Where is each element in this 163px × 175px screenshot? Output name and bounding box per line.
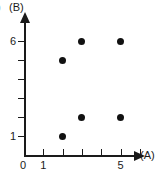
- x-axis-tick: [63, 149, 64, 157]
- y-axis-tick: [18, 41, 26, 42]
- y-axis-tick: [18, 60, 26, 61]
- data-point: [78, 38, 85, 45]
- data-point: [117, 38, 124, 45]
- x-axis-tick-label: 1: [36, 160, 50, 171]
- x-axis-tick: [82, 149, 83, 157]
- y-axis-arrow-icon: [20, 12, 30, 23]
- y-axis-tick: [18, 136, 26, 137]
- y-axis-tick: [18, 98, 26, 99]
- y-axis-title-partial-glyph: ): [0, 1, 1, 13]
- x-axis-tick: [101, 149, 102, 157]
- data-point: [117, 114, 124, 121]
- scatter-chart: ) (B) (A) 16 15 0: [0, 0, 163, 175]
- y-axis-tick-label: 6: [2, 36, 16, 47]
- x-axis-tick: [43, 149, 44, 157]
- data-point: [59, 57, 66, 64]
- x-axis-tick: [140, 149, 141, 157]
- x-axis-tick-label: 5: [114, 160, 128, 171]
- data-point: [78, 114, 85, 121]
- y-axis-tick-label: 1: [2, 131, 16, 142]
- y-axis-tick: [18, 117, 26, 118]
- data-point: [59, 133, 66, 140]
- x-axis-tick: [121, 149, 122, 157]
- origin-label: 0: [16, 160, 30, 171]
- x-axis-line: [24, 155, 136, 157]
- y-axis-tick: [18, 79, 26, 80]
